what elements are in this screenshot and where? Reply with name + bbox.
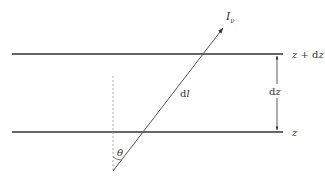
bottom-boundary-label: z [291, 127, 298, 138]
ray-arrow [113, 28, 223, 171]
top-boundary-label: z + dz [291, 49, 324, 60]
slab-diagram: Iν z + dz z dl dz θ [0, 0, 325, 180]
angle-label: θ [117, 147, 123, 158]
thickness-label: dz [269, 86, 281, 97]
path-element-label: dl [180, 88, 190, 99]
intensity-label: Iν [225, 10, 235, 25]
